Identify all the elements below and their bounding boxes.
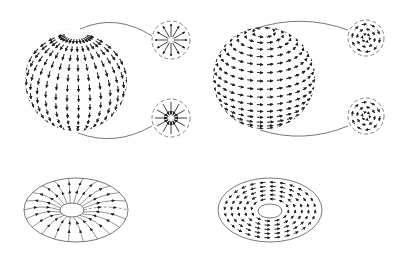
sphere-meridional-field bbox=[24, 28, 128, 132]
figure-canvas bbox=[0, 0, 405, 256]
pole-inset-circles bbox=[152, 20, 384, 137]
torus-latitudinal-field bbox=[218, 178, 322, 242]
north-pole-source-inset bbox=[152, 21, 190, 59]
torus-hole bbox=[60, 203, 84, 217]
south-pole-vortex-inset bbox=[348, 98, 384, 134]
torus-meridional-field bbox=[24, 178, 128, 242]
torus-hole bbox=[258, 204, 282, 218]
north-pole-vortex-inset bbox=[348, 20, 384, 56]
sphere-outline bbox=[212, 26, 316, 130]
vector-field-figure: Vector fields on a sphere and a torus: r… bbox=[0, 0, 405, 256]
connector-arcs bbox=[78, 21, 348, 138]
sphere-outline bbox=[24, 28, 128, 132]
sphere-latitudinal-field bbox=[212, 26, 316, 130]
south-pole-sink-inset bbox=[152, 99, 190, 137]
